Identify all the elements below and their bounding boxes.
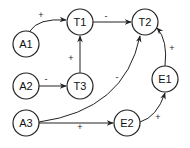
node-t3: T3	[67, 73, 93, 99]
node-label-a2: A2	[19, 80, 32, 92]
edge-sign-t1-t2: -	[105, 11, 108, 21]
node-e2: E2	[114, 110, 140, 136]
edge-sign-e2-e1: +	[155, 112, 160, 122]
edge-sign-a1-t1: +	[38, 10, 43, 20]
edge-e2-e1	[140, 93, 165, 122]
node-label-t3: T3	[74, 80, 87, 92]
node-t1: T1	[67, 9, 93, 35]
node-a3: A3	[13, 110, 39, 136]
node-label-t1: T1	[74, 16, 87, 28]
causal-diagram: + - + - - + + + A1 T1 T2 A2	[0, 0, 190, 148]
node-label-a3: A3	[19, 117, 32, 129]
edge-e1-t2	[157, 28, 166, 66]
edge-sign-a3-e2: +	[77, 122, 82, 132]
node-t2: T2	[132, 9, 158, 35]
node-label-t2: T2	[139, 16, 152, 28]
node-label-e2: E2	[120, 117, 133, 129]
edge-sign-e1-t2: +	[169, 43, 174, 53]
edge-a1-t1	[30, 20, 66, 31]
node-label-a1: A1	[19, 38, 32, 50]
node-a2: A2	[13, 73, 39, 99]
edge-sign-a3-t2: -	[116, 72, 119, 82]
node-a1: A1	[13, 31, 39, 57]
edge-sign-t3-t1: +	[68, 53, 73, 63]
node-label-e1: E1	[158, 73, 171, 85]
edge-sign-a2-t3: -	[45, 74, 48, 84]
node-e1: E1	[152, 66, 178, 92]
